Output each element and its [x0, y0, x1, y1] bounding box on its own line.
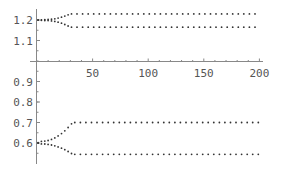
data-point-lower-high: [113, 122, 115, 124]
data-point-lower-low: [64, 149, 66, 151]
data-point-upper-high: [171, 13, 173, 15]
data-point-lower-high: [257, 122, 259, 124]
data-point-lower-high: [219, 122, 221, 124]
data-point-upper-high: [51, 18, 53, 20]
data-point-upper-low: [154, 26, 156, 28]
data-point-upper-low: [93, 26, 95, 28]
data-point-lower-low: [202, 153, 204, 155]
data-point-upper-high: [249, 13, 251, 15]
data-point-upper-high: [126, 13, 128, 15]
data-point-upper-low: [76, 26, 78, 28]
data-point-lower-low: [96, 153, 98, 155]
data-point-upper-low: [199, 26, 201, 28]
data-point-lower-low: [51, 144, 53, 146]
data-point-lower-high: [252, 122, 254, 124]
data-point-lower-high: [230, 122, 232, 124]
data-point-lower-low: [230, 153, 232, 155]
data-point-upper-low: [215, 26, 217, 28]
data-point-upper-high: [160, 13, 162, 15]
data-point-upper-low: [51, 20, 53, 22]
data-point-lower-high: [146, 122, 148, 124]
x-tick-label: 100: [138, 67, 158, 80]
data-point-upper-low: [126, 26, 128, 28]
data-point-upper-low: [226, 26, 228, 28]
data-point-lower-high: [141, 122, 143, 124]
data-point-lower-low: [219, 153, 221, 155]
data-point-lower-low: [246, 153, 248, 155]
data-point-upper-low: [47, 20, 49, 22]
data-point-upper-high: [87, 13, 89, 15]
data-point-upper-high: [54, 18, 56, 20]
data-point-upper-low: [37, 19, 39, 21]
x-tick-label: 150: [194, 67, 214, 80]
data-point-lower-low: [224, 153, 226, 155]
data-point-upper-high: [132, 13, 134, 15]
data-point-upper-low: [137, 26, 139, 28]
data-point-lower-low: [80, 153, 82, 155]
data-point-lower-low: [235, 153, 237, 155]
data-point-upper-low: [165, 26, 167, 28]
data-point-upper-low: [121, 26, 123, 28]
data-point-lower-low: [113, 153, 115, 155]
data-point-upper-high: [93, 13, 95, 15]
data-point-lower-high: [241, 122, 243, 124]
data-point-upper-high: [64, 15, 66, 17]
data-point-lower-high: [207, 122, 209, 124]
data-point-lower-low: [41, 143, 43, 145]
data-point-lower-high: [67, 127, 69, 129]
data-point-lower-high: [80, 122, 82, 124]
data-point-lower-high: [57, 135, 59, 137]
data-point-lower-high: [107, 122, 109, 124]
data-point-lower-high: [157, 122, 159, 124]
data-point-lower-low: [152, 153, 154, 155]
data-point-upper-low: [249, 26, 251, 28]
data-point-upper-high: [57, 17, 59, 19]
data-point-lower-high: [91, 122, 93, 124]
y-tick-label: 1.2: [13, 14, 33, 27]
data-point-upper-low: [67, 25, 69, 27]
data-point-lower-low: [157, 153, 159, 155]
data-point-upper-low: [182, 26, 184, 28]
x-axis: 50100150200: [30, 59, 269, 80]
data-point-upper-low: [143, 26, 145, 28]
data-point-lower-high: [185, 122, 187, 124]
data-point-upper-high: [193, 13, 195, 15]
data-point-upper-low: [237, 26, 239, 28]
y-axis: 1.21.10.90.80.70.6: [13, 9, 40, 164]
data-points: [37, 13, 259, 155]
data-point-lower-high: [47, 140, 49, 142]
data-point-lower-low: [207, 153, 209, 155]
data-point-lower-high: [213, 122, 215, 124]
data-point-lower-low: [124, 153, 126, 155]
data-point-lower-low: [118, 153, 120, 155]
data-point-upper-low: [41, 19, 43, 21]
data-point-upper-low: [210, 26, 212, 28]
data-point-upper-high: [143, 13, 145, 15]
data-point-upper-high: [187, 13, 189, 15]
data-point-upper-low: [110, 26, 112, 28]
data-point-lower-high: [71, 123, 73, 125]
data-point-lower-low: [44, 143, 46, 145]
y-tick-label: 0.7: [13, 117, 33, 130]
data-point-lower-low: [241, 153, 243, 155]
data-point-upper-low: [232, 26, 234, 28]
data-point-lower-low: [191, 153, 193, 155]
data-point-lower-high: [118, 122, 120, 124]
data-point-lower-high: [246, 122, 248, 124]
data-point-lower-high: [54, 137, 56, 139]
data-point-lower-low: [67, 151, 69, 153]
data-point-lower-low: [71, 153, 73, 155]
data-point-lower-high: [202, 122, 204, 124]
data-point-lower-low: [57, 146, 59, 148]
data-point-lower-high: [102, 122, 104, 124]
data-point-upper-high: [199, 13, 201, 15]
data-point-upper-low: [148, 26, 150, 28]
data-point-upper-high: [165, 13, 167, 15]
data-point-upper-high: [137, 13, 139, 15]
data-point-lower-low: [102, 153, 104, 155]
data-point-lower-low: [91, 153, 93, 155]
data-point-upper-low: [44, 20, 46, 22]
data-point-upper-low: [54, 21, 56, 23]
data-point-lower-low: [174, 153, 176, 155]
data-point-upper-high: [243, 13, 245, 15]
